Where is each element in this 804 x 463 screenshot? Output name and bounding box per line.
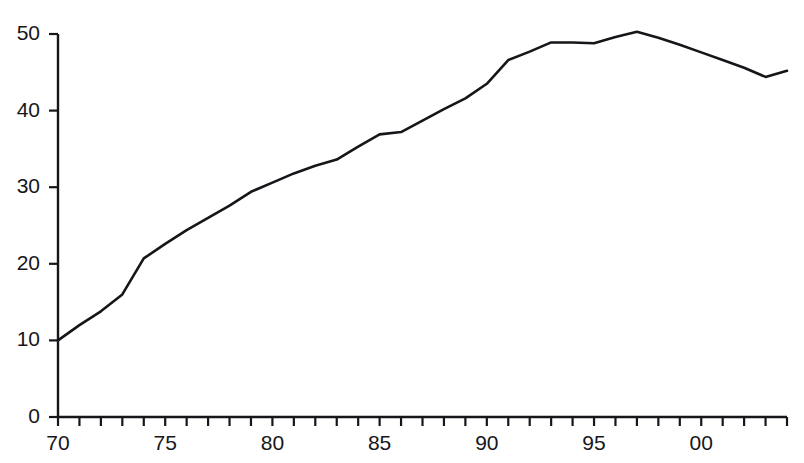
x-tick-group (58, 417, 787, 426)
clipped-header-strip: — — —— —— — — — — — — — — (0, 0, 804, 10)
y-axis-label-20: 20 (0, 251, 40, 275)
x-axis-label-1985: 85 (350, 431, 410, 455)
y-tick-group (49, 34, 58, 417)
x-axis-label-1990: 90 (457, 431, 517, 455)
x-axis-label-2000: 00 (671, 431, 731, 455)
y-axis-label-30: 30 (0, 174, 40, 198)
y-axis-label-40: 40 (0, 98, 40, 122)
axis-group (58, 34, 787, 417)
plot-area: 01020304050 70758085909500 (0, 10, 804, 463)
chart-canvas: — — —— —— — — — — — — — — 01020304050 70… (0, 0, 804, 463)
axis-spine (58, 34, 787, 417)
data-line-series-1 (58, 32, 787, 341)
x-axis-label-1975: 75 (135, 431, 195, 455)
clipped-header-text: — — —— —— — — — — — — — — (86, 0, 318, 4)
y-axis-label-10: 10 (0, 327, 40, 351)
y-axis-label-50: 50 (0, 21, 40, 45)
x-axis-label-1980: 80 (242, 431, 302, 455)
y-axis-label-0: 0 (0, 404, 40, 428)
data-series-group (58, 32, 787, 341)
x-axis-label-1995: 95 (564, 431, 624, 455)
chart-svg (0, 10, 804, 463)
x-axis-label-1970: 70 (28, 431, 88, 455)
